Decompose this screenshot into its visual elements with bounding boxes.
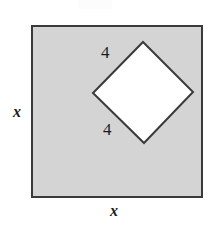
side-label-x-left: x — [13, 104, 21, 120]
geometry-figure: x x 4 4 — [0, 0, 214, 227]
figure-canvas — [0, 0, 214, 227]
side-label-x-bottom: x — [110, 203, 118, 219]
side-label-4-lower: 4 — [103, 121, 112, 138]
side-label-4-upper: 4 — [101, 44, 110, 61]
